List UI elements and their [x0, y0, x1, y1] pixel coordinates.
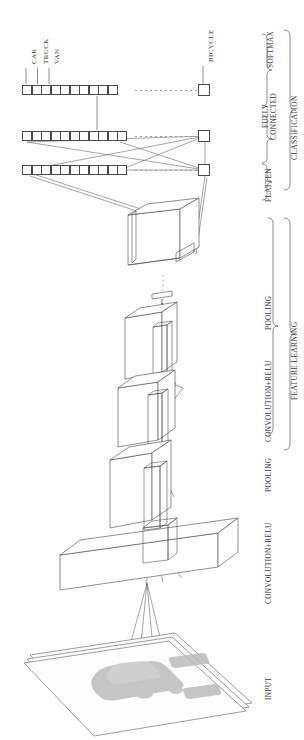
cnn-diagram-figure: CAR TRUCK VAN BICYCLE SOFTMAX FULLY CONN…	[0, 0, 304, 740]
stage-label-connected: CONNECTED	[270, 93, 278, 140]
group-label-classification: CLASSIFICATION	[290, 95, 299, 160]
stage-label-flatten: FLATTEN	[265, 168, 273, 202]
fc-ellipsis-dots	[135, 136, 197, 137]
flatten-extra-cell	[198, 164, 210, 176]
softmax-cell	[108, 85, 118, 95]
class-label-truck: TRUCK	[42, 38, 50, 64]
stage-label-softmax: SOFTMAX	[267, 31, 275, 68]
class-label-car: CAR	[30, 48, 38, 64]
flatten-cell	[117, 165, 127, 175]
stage-label-pooling-2: POOLING	[265, 296, 273, 330]
class-label-van: VAN	[53, 49, 61, 64]
stage-label-pooling-1: POOLING	[265, 458, 273, 492]
stage-label-convolution-2: CONVOLUTION+RELU	[265, 360, 273, 442]
fully-connected-cell	[117, 131, 127, 141]
fully-connected-vector	[22, 131, 127, 141]
softmax-bicycle-cell	[198, 84, 210, 96]
input-image-planes	[24, 633, 252, 736]
class-label-bicycle: BICYCLE	[207, 29, 215, 62]
convolution-2-volume	[118, 370, 183, 449]
pooling-2-volume	[125, 291, 177, 379]
stage-label-fully: FULLY	[262, 104, 270, 128]
convolution-1-volume	[60, 518, 238, 590]
softmax-vector	[22, 85, 117, 95]
diagram-line-art	[0, 0, 304, 740]
class-tick-marks	[26, 66, 203, 84]
flatten-vector	[22, 165, 127, 175]
group-label-feature-learning: FEATURE LEARNING	[290, 322, 299, 400]
fc-extra-cell	[198, 130, 210, 142]
stage-label-convolution-1: CONVOLUTION+RELU	[265, 522, 273, 604]
flatten-ellipsis-dots	[135, 170, 197, 171]
stage-label-input: INPUT	[265, 677, 273, 700]
softmax-ellipsis-dots	[135, 90, 197, 91]
pooling-1-volume	[110, 440, 174, 530]
